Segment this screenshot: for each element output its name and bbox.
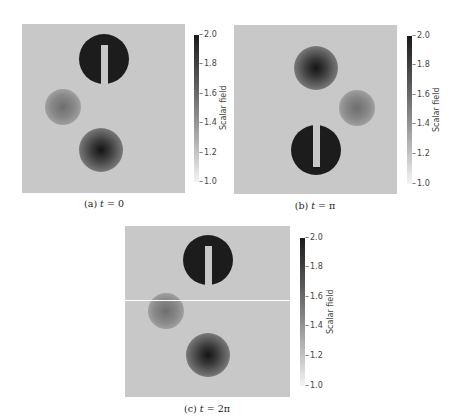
tick: 1.8 [199, 60, 217, 68]
tick: 1.4 [305, 322, 323, 330]
caption-c: (c) t = 2π [184, 403, 230, 414]
colorbar-c [300, 238, 305, 386]
tick: 1.8 [412, 61, 430, 69]
gaussian-hump [339, 90, 375, 126]
disk-slot [101, 45, 108, 85]
colorbar-b [407, 36, 412, 184]
colorbar-label: Scalar field [326, 289, 335, 334]
tick: 1.6 [199, 90, 217, 98]
disk-slot [313, 124, 320, 167]
divider-line [125, 300, 290, 301]
caption-b: (b) t = π [295, 200, 336, 211]
tick: 1.8 [305, 263, 323, 271]
tick: 1.2 [412, 150, 430, 158]
colorbar-label: Scalar field [432, 87, 441, 132]
cone [186, 333, 230, 377]
cone [79, 128, 123, 172]
gaussian-hump [148, 293, 184, 329]
colorbar-a [194, 35, 199, 182]
colorbar-label: Scalar field [219, 85, 228, 130]
tick: 1.6 [305, 293, 323, 301]
cone [294, 46, 338, 90]
tick: 1.0 [412, 180, 430, 188]
tick: 2.0 [412, 32, 430, 40]
tick: 1.0 [199, 178, 217, 186]
tick: 1.2 [199, 149, 217, 157]
disk-slot [205, 246, 212, 286]
tick: 1.6 [412, 91, 430, 99]
caption-a: (a) t = 0 [84, 198, 124, 209]
tick: 1.4 [412, 120, 430, 128]
tick: 1.0 [305, 382, 323, 390]
plot-panel-a [22, 24, 185, 193]
tick: 2.0 [199, 31, 217, 39]
gaussian-hump [45, 89, 81, 125]
plot-panel-b [234, 25, 397, 194]
tick: 1.2 [305, 352, 323, 360]
tick: 1.4 [199, 119, 217, 127]
plot-panel-c [125, 226, 290, 397]
tick: 2.0 [305, 234, 323, 242]
